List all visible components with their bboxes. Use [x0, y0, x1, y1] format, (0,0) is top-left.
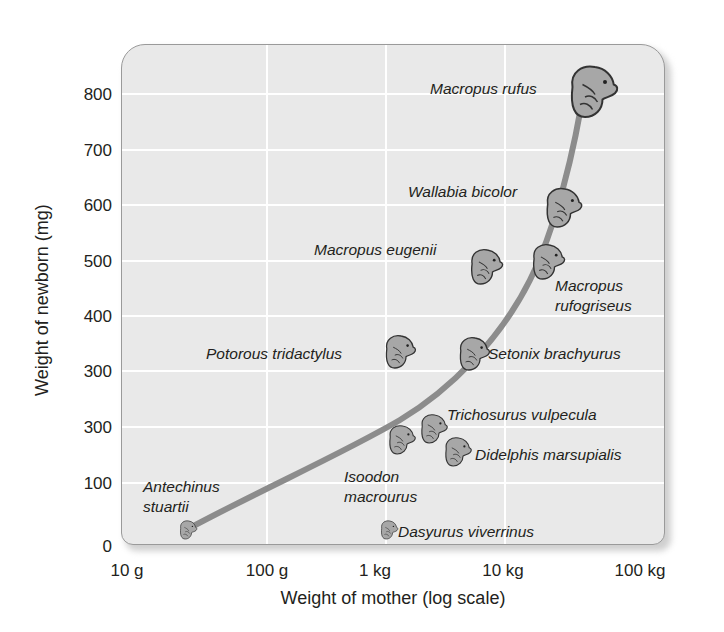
- x-tick-1kg: 1 kg: [359, 562, 391, 579]
- point-macropus-eugenii-icon: [472, 250, 503, 284]
- point-macropus-rufus-icon: [572, 67, 617, 117]
- point-setonix-brachyurus-icon: [460, 338, 489, 370]
- label-isoodon-macrourus-line1: Isoodon: [344, 467, 399, 486]
- label-didelphis-marsupialis: Didelphis marsupialis: [475, 445, 621, 464]
- y-tick-400: 400: [52, 308, 112, 325]
- label-macropus-eugenii: Macropus eugenii: [314, 240, 436, 259]
- point-isoodon-macrourus-icon: [390, 426, 415, 454]
- label-wallabia-bicolor: Wallabia bicolor: [408, 182, 517, 201]
- y-tick-600: 600: [52, 197, 112, 214]
- point-antechinus-stuartii-icon: [180, 521, 196, 539]
- label-antechinus-stuartii-line2: stuartii: [143, 497, 189, 516]
- y-tick-500: 500: [52, 253, 112, 270]
- label-setonix-brachyurus: Setonix brachyurus: [488, 344, 621, 363]
- y-axis-title: Weight of newborn (mg): [32, 204, 53, 396]
- y-tick-800: 800: [52, 86, 112, 103]
- point-didelphis-marsupialis-icon: [446, 438, 471, 466]
- point-dasyurus-viverrinus-icon: [381, 521, 397, 539]
- x-tick-10kg: 10 kg: [482, 562, 524, 579]
- label-macropus-rufus: Macropus rufus: [430, 79, 537, 98]
- point-trichosurus-vulpecula-icon: [422, 415, 447, 443]
- y-tick-100: 100: [52, 475, 112, 492]
- x-tick-100kg: 100 kg: [614, 562, 665, 579]
- x-axis-title: Weight of mother (log scale): [281, 588, 506, 609]
- y-tick-700: 700: [52, 142, 112, 159]
- x-tick-100g: 100 g: [246, 562, 289, 579]
- x-tick-10g: 10 g: [110, 562, 143, 579]
- y-tick-0: 0: [52, 538, 112, 555]
- label-trichosurus-vulpecula: Trichosurus vulpecula: [447, 405, 597, 424]
- label-antechinus-stuartii-line1: Antechinus: [143, 477, 220, 496]
- label-macropus-rufogriseus-line2: rufogriseus: [555, 296, 632, 315]
- label-isoodon-macrourus-line2: macrourus: [344, 487, 417, 506]
- label-potorous-tridactylus: Potorous tridactylus: [206, 344, 342, 363]
- label-macropus-rufogriseus-line1: Macropus: [555, 276, 623, 295]
- point-potorous-tridactylus-icon: [386, 336, 415, 368]
- label-dasyurus-viverrinus: Dasyurus viverrinus: [398, 522, 534, 541]
- point-wallabia-bicolor-icon: [547, 189, 582, 227]
- point-macropus-rufogriseus-icon: [534, 245, 565, 279]
- y-tick-200: 300: [52, 419, 112, 436]
- y-tick-300: 300: [52, 363, 112, 380]
